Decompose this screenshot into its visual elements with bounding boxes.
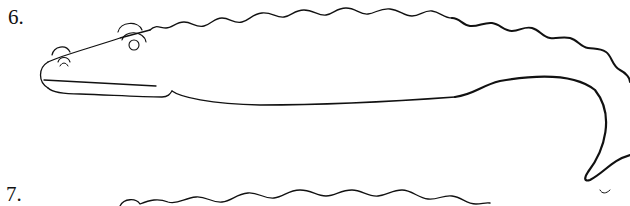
belly-line: [172, 91, 455, 105]
wavy-back-tail: [452, 18, 630, 82]
step-7-crocodile-partial: [120, 190, 610, 206]
wavy-back-step-7: [120, 190, 490, 206]
lower-jaw: [48, 88, 172, 97]
tail-tip-step-6: [600, 190, 610, 193]
mouth-line: [44, 80, 156, 86]
eye-bump: [118, 23, 142, 32]
nostril-bump: [52, 47, 70, 55]
nostril-inner-2: [60, 63, 68, 66]
eye-pupil: [129, 40, 139, 50]
nose-outline: [41, 62, 49, 88]
step-6-crocodile: [41, 8, 630, 181]
crocodile-drawing: [0, 0, 630, 206]
wavy-back: [150, 8, 452, 30]
tail-underside: [455, 77, 630, 181]
nostril-inner: [58, 58, 70, 63]
